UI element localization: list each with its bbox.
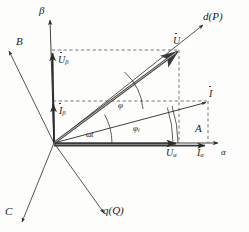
omega-t-angle-label: ωt [86, 131, 93, 139]
u-beta-subscript: β [65, 58, 68, 65]
i-alpha-label: Iα [197, 148, 204, 159]
beta-axis-label: β [39, 5, 44, 16]
phi-angle-label: φ [118, 101, 123, 110]
q-axis-line [54, 143, 104, 213]
voltage-phasor-highlight [54, 53, 176, 143]
u-alpha-label: Uα [166, 148, 177, 159]
i-alpha-subscript: α [200, 151, 203, 158]
voltage-phasor-symbol: U [173, 36, 180, 46]
c-phase-axis-label: C [5, 206, 12, 217]
angle-arcs-group [105, 72, 179, 143]
u-beta-label: Uβ [58, 55, 69, 66]
phi-i-angle-label: φi [133, 124, 140, 134]
i-alpha-symbol: I [197, 148, 200, 158]
phasor-diagram: β B C A α d(P) q(Q) U I Uβ Iβ Uα Iα ωt φ… [0, 0, 249, 232]
current-phasor-label: I [209, 89, 212, 99]
u-alpha-subscript: α [173, 151, 176, 158]
u-beta-symbol: U [58, 55, 65, 65]
phi-i-subscript: i [138, 127, 140, 133]
current-phasor-vector [54, 103, 206, 144]
phi-arc [125, 72, 144, 109]
b-phase-axis-line [9, 51, 54, 143]
beta-component-group [53, 53, 55, 143]
i-beta-label: Iβ [59, 106, 66, 117]
alpha-component-group [54, 144, 205, 146]
projection-lines-group [52, 50, 208, 143]
phasor-group [54, 52, 206, 143]
alpha-axis-letter-label: A [195, 123, 202, 134]
alpha-axis-label: α [221, 148, 226, 157]
u-alpha-symbol: U [166, 148, 173, 158]
d-axis-label: d(P) [203, 11, 223, 22]
current-phasor-symbol: I [209, 89, 212, 99]
axis-group [9, 20, 218, 222]
voltage-phasor-label: U [173, 36, 180, 46]
i-beta-symbol: I [59, 106, 62, 116]
vector-diagram-canvas [0, 0, 249, 232]
i-beta-subscript: β [62, 109, 65, 116]
b-phase-axis-label: B [16, 36, 23, 47]
c-phase-axis-line [22, 143, 54, 222]
i-beta-vector [53, 104, 54, 143]
q-axis-label: q(Q) [103, 205, 124, 216]
